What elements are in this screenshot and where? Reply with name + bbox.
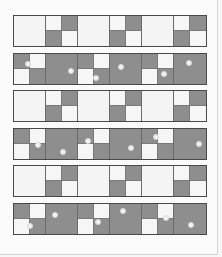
solid-dark-block <box>174 129 206 159</box>
solid-light-block <box>14 166 46 196</box>
dark-square <box>174 31 190 46</box>
solid-light-block <box>142 16 174 46</box>
light-square <box>46 91 62 106</box>
dark-square <box>62 91 78 106</box>
solid-dark-block <box>110 129 142 159</box>
fabric-spot <box>60 149 66 155</box>
solid-light-block <box>78 166 110 196</box>
light-square <box>14 144 30 159</box>
four-patch-block <box>142 54 174 84</box>
dark-square <box>158 144 174 159</box>
dark-square <box>78 204 94 219</box>
light-square <box>142 69 158 84</box>
dark-square <box>78 54 94 69</box>
solid-dark-block <box>46 129 78 159</box>
light-square <box>126 31 142 46</box>
dark-square <box>30 69 46 84</box>
light-square <box>78 219 94 234</box>
four-patch-block <box>78 54 110 84</box>
fabric-spot <box>93 75 99 81</box>
solid-light-block <box>78 16 110 46</box>
quilt-row-light <box>13 165 207 197</box>
quilt-row-light <box>13 90 207 122</box>
four-patch-block <box>14 54 46 84</box>
light-square <box>190 106 206 121</box>
four-patch-block <box>174 16 206 46</box>
solid-dark-block <box>174 54 206 84</box>
four-patch-block <box>174 166 206 196</box>
quilt-row-dark <box>13 53 207 85</box>
document-page <box>0 0 218 255</box>
dark-square <box>190 91 206 106</box>
dark-square <box>46 106 62 121</box>
solid-light-block <box>142 166 174 196</box>
four-patch-block <box>110 16 142 46</box>
light-square <box>110 166 126 181</box>
dark-square <box>174 106 190 121</box>
fabric-spot <box>161 71 167 77</box>
solid-light-block <box>142 91 174 121</box>
light-square <box>190 181 206 196</box>
four-patch-block <box>78 204 110 234</box>
four-patch-block <box>46 16 78 46</box>
dark-square <box>14 204 30 219</box>
four-patch-block <box>110 91 142 121</box>
four-patch-block <box>142 129 174 159</box>
fabric-spot <box>52 212 58 218</box>
dark-square <box>110 181 126 196</box>
dark-square <box>174 181 190 196</box>
solid-dark-block <box>110 204 142 234</box>
fabric-spot <box>35 142 41 148</box>
light-square <box>62 106 78 121</box>
dark-square <box>126 166 142 181</box>
dark-square <box>126 16 142 31</box>
light-square <box>78 69 94 84</box>
solid-dark-block <box>174 204 206 234</box>
solid-light-block <box>14 16 46 46</box>
dark-square <box>142 204 158 219</box>
light-square <box>14 69 30 84</box>
solid-dark-block <box>46 204 78 234</box>
light-square <box>158 54 174 69</box>
dark-square <box>46 181 62 196</box>
four-patch-block <box>78 129 110 159</box>
dark-square <box>62 16 78 31</box>
light-square <box>46 16 62 31</box>
solid-dark-block <box>110 54 142 84</box>
four-patch-block <box>14 129 46 159</box>
fabric-spot <box>68 68 74 74</box>
light-square <box>126 181 142 196</box>
light-square <box>94 204 110 219</box>
light-square <box>174 166 190 181</box>
light-square <box>94 54 110 69</box>
light-square <box>158 129 174 144</box>
fabric-spot <box>85 138 91 144</box>
quilt-row-dark <box>13 203 207 235</box>
light-square <box>142 219 158 234</box>
dark-square <box>142 54 158 69</box>
light-square <box>62 181 78 196</box>
fabric-spot <box>186 60 192 66</box>
light-square <box>126 106 142 121</box>
dark-square <box>62 166 78 181</box>
dark-square <box>46 31 62 46</box>
light-square <box>46 166 62 181</box>
light-square <box>110 91 126 106</box>
four-patch-block <box>46 166 78 196</box>
light-square <box>174 16 190 31</box>
dark-square <box>110 31 126 46</box>
dark-square <box>190 16 206 31</box>
four-patch-block <box>110 166 142 196</box>
light-square <box>190 31 206 46</box>
light-square <box>62 31 78 46</box>
fabric-spot <box>128 145 134 151</box>
solid-light-block <box>14 91 46 121</box>
quilt-row-dark <box>13 128 207 160</box>
four-patch-block <box>46 91 78 121</box>
dark-square <box>190 166 206 181</box>
light-square <box>30 54 46 69</box>
solid-dark-block <box>46 54 78 84</box>
dark-square <box>94 144 110 159</box>
fabric-spot <box>120 208 126 214</box>
light-square <box>110 16 126 31</box>
